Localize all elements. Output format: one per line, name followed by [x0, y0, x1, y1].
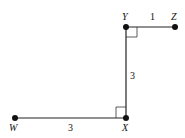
point-w: [12, 115, 18, 121]
point-y: [123, 24, 129, 30]
label-x: X: [121, 122, 129, 133]
geometry-diagram: W X Y Z 3 3 1: [0, 0, 185, 138]
length-label-wx: 3: [68, 122, 73, 133]
length-label-yz: 1: [150, 11, 155, 22]
label-z: Z: [171, 11, 177, 22]
length-label-xy: 3: [130, 70, 135, 81]
label-y: Y: [122, 11, 129, 22]
point-x: [123, 115, 129, 121]
label-w: W: [9, 122, 19, 133]
point-z: [172, 24, 178, 30]
